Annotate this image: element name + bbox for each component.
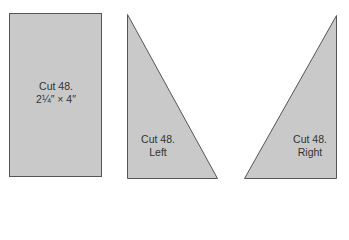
right-triangle-label-line1: Cut 48. xyxy=(293,133,327,146)
rectangle-label-line2: 2¼″ × 4″ xyxy=(36,93,76,106)
right-triangle-label-line2: Right xyxy=(293,146,327,159)
left-triangle-label-line1: Cut 48. xyxy=(141,133,175,146)
left-triangle-label: Cut 48. Left xyxy=(141,133,175,159)
right-triangle-label: Cut 48. Right xyxy=(293,133,327,159)
left-triangle-label-line2: Left xyxy=(141,146,175,159)
rectangle-label-line1: Cut 48. xyxy=(36,80,76,93)
rectangle-label: Cut 48. 2¼″ × 4″ xyxy=(36,80,76,106)
